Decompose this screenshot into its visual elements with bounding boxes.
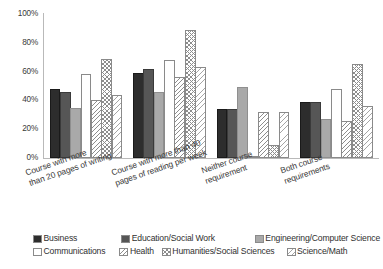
legend-label: Communications	[44, 247, 106, 256]
y-axis-tick-label: 40%	[22, 96, 44, 104]
bar-humanities	[268, 145, 279, 158]
legend-swatch-sciencemath	[287, 248, 296, 256]
bar-sciencemath	[112, 95, 123, 158]
legend-label: Engineering/Computer Science	[265, 234, 380, 243]
bar-business	[50, 89, 61, 158]
bar-education	[227, 109, 238, 158]
bar-business	[300, 102, 311, 158]
legend-label: Business	[44, 234, 78, 243]
bar-sciencemath	[279, 112, 290, 158]
bar-health	[341, 121, 352, 158]
legend-item[interactable]: Humanities/Social Sciences	[162, 247, 275, 256]
legend-swatch-communications	[33, 248, 42, 256]
bar-communications	[331, 89, 342, 158]
legend-row: CommunicationsHealthHumanities/Social Sc…	[33, 245, 378, 258]
bar-group	[217, 14, 290, 158]
bar-education	[143, 69, 154, 158]
legend-item[interactable]: Engineering/Computer Science	[255, 234, 380, 243]
legend-swatch-engineering	[255, 235, 264, 243]
bar-communications	[164, 60, 175, 158]
bar-sciencemath	[362, 106, 373, 158]
legend-swatch-health	[119, 248, 128, 256]
legend-label: Science/Math	[297, 247, 347, 256]
legend-swatch-humanities	[162, 248, 171, 256]
bar-engineering	[154, 92, 165, 158]
bar-engineering	[237, 87, 248, 158]
bar-education	[60, 92, 71, 158]
legend-item[interactable]: Communications	[33, 247, 105, 256]
y-axis-tick-label: 100%	[18, 10, 44, 18]
legend-item[interactable]: Business	[33, 234, 77, 243]
y-axis-tick-label: 60%	[22, 67, 44, 75]
legend-label: Health	[130, 247, 154, 256]
plot-area: 0%20%40%60%80%100%	[44, 14, 378, 158]
chart-legend: BusinessEducation/Social WorkEngineering…	[33, 232, 378, 258]
y-axis-tick-label: 20%	[22, 125, 44, 133]
bar-business	[217, 109, 228, 158]
legend-row: BusinessEducation/Social WorkEngineering…	[33, 232, 378, 245]
legend-label: Humanities/Social Sciences	[172, 247, 274, 256]
legend-swatch-education	[121, 235, 130, 243]
legend-item[interactable]: Health	[119, 247, 153, 256]
bar-education	[310, 102, 321, 158]
bar-group	[133, 14, 206, 158]
legend-item[interactable]: Education/Social Work	[121, 234, 215, 243]
bar-group	[50, 14, 123, 158]
legend-item[interactable]: Science/Math	[287, 247, 348, 256]
bar-health	[258, 112, 269, 158]
legend-swatch-business	[33, 235, 42, 243]
bar-chart: 0%20%40%60%80%100% BusinessEducation/Soc…	[0, 0, 383, 269]
bar-group	[300, 14, 373, 158]
legend-label: Education/Social Work	[132, 234, 215, 243]
bar-business	[133, 73, 144, 158]
bar-humanities	[352, 64, 363, 158]
y-axis-tick-label: 80%	[22, 39, 44, 47]
